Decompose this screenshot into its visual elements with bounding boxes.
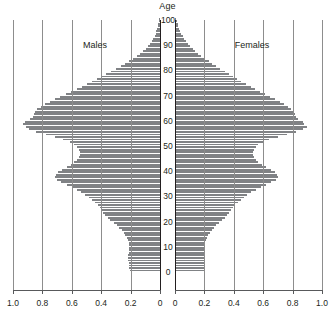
axis-tick: [13, 290, 14, 294]
bar: [175, 43, 188, 45]
bar: [129, 252, 160, 254]
bar: [117, 224, 161, 226]
bar: [23, 123, 160, 125]
bar: [128, 254, 160, 256]
bar: [175, 113, 295, 115]
bar: [175, 265, 205, 267]
bar: [103, 212, 160, 214]
age-tick-label: 70: [160, 91, 176, 101]
axis-tick: [263, 290, 264, 294]
bar: [175, 239, 206, 241]
bar: [175, 194, 247, 196]
bar: [175, 116, 296, 118]
bar: [175, 212, 229, 214]
bar: [129, 267, 160, 269]
bar: [175, 98, 275, 100]
age-tick-label: 40: [160, 166, 176, 176]
bar: [128, 260, 160, 262]
chart-title: Age: [0, 1, 335, 11]
bar: [79, 149, 160, 151]
bar: [175, 252, 205, 254]
age-tick-label: 100: [160, 15, 176, 25]
bar: [33, 116, 160, 118]
bar: [175, 146, 256, 148]
bar: [70, 141, 160, 143]
bar: [175, 154, 253, 156]
age-tick-label: 30: [160, 191, 176, 201]
bar: [175, 83, 246, 85]
axis-tick: [293, 290, 294, 294]
bar: [175, 50, 195, 52]
age-tick-label: 0: [160, 267, 176, 277]
bar: [175, 169, 271, 171]
bar: [95, 202, 160, 204]
bar: [175, 199, 241, 201]
bar: [55, 176, 160, 178]
gridline: [101, 20, 102, 290]
bar: [26, 126, 160, 128]
axis-tick-label: 0: [158, 298, 163, 308]
bar: [50, 101, 160, 103]
bar: [175, 224, 216, 226]
bar: [89, 197, 160, 199]
bar: [175, 174, 277, 176]
bar: [175, 227, 214, 229]
bar: [58, 171, 160, 173]
axis-tick-label: 0.6: [66, 298, 78, 308]
age-tick-label: 50: [160, 141, 176, 151]
bar: [150, 43, 160, 45]
bar: [175, 186, 261, 188]
bar: [152, 40, 160, 42]
bar: [175, 149, 254, 151]
bar: [129, 242, 160, 244]
axis-tick: [72, 290, 73, 294]
bar: [35, 111, 160, 113]
bar: [143, 50, 160, 52]
gridline: [72, 20, 73, 290]
bar: [175, 134, 287, 136]
bar: [80, 154, 160, 156]
bar: [175, 45, 190, 47]
axis-tick-label: 0.6: [257, 298, 269, 308]
bar: [175, 78, 237, 80]
gridline: [13, 20, 14, 290]
bar: [146, 48, 160, 50]
bar: [175, 262, 205, 264]
bar: [175, 257, 205, 259]
axis-tick-label: 0.8: [36, 298, 48, 308]
bar: [175, 48, 193, 50]
bar: [106, 73, 160, 75]
bar: [81, 191, 160, 193]
gridline: [263, 20, 264, 290]
bar: [80, 151, 160, 153]
axis-tick-label: 0.4: [95, 298, 107, 308]
bar: [175, 103, 284, 105]
series-label-females: Females: [235, 40, 270, 50]
axis-tick-label: 0.2: [125, 298, 137, 308]
bar: [98, 204, 160, 206]
axis-tick-label: 0: [173, 298, 178, 308]
bar: [175, 93, 265, 95]
bar: [175, 184, 266, 186]
axis-tick: [101, 290, 102, 294]
bar: [175, 123, 304, 125]
bar: [175, 141, 263, 143]
bar: [77, 189, 160, 191]
males-axis-line: [13, 290, 160, 291]
bar: [121, 65, 160, 67]
bar: [175, 191, 251, 193]
age-tick-label: 10: [160, 242, 176, 252]
bar: [175, 65, 216, 67]
bar: [175, 171, 275, 173]
bar: [175, 68, 220, 70]
age-tick-label: 90: [160, 40, 176, 50]
bar: [67, 166, 160, 168]
females-bars: [175, 20, 322, 272]
series-label-males: Males: [83, 40, 107, 50]
bar: [175, 249, 205, 251]
bar: [175, 229, 212, 231]
bar: [82, 86, 160, 88]
bar: [175, 247, 204, 249]
bar: [45, 103, 160, 105]
bar: [37, 108, 160, 110]
